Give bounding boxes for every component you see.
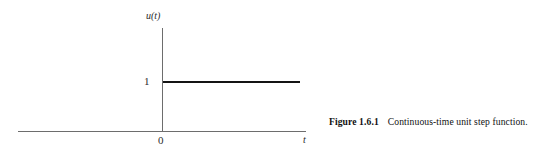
step-plateau-segment: [163, 81, 300, 83]
figure-caption: Figure 1.6.1Continuous-time unit step fu…: [329, 116, 529, 129]
y-axis-label: u(t): [146, 11, 160, 21]
figure-caption-number: Figure 1.6.1: [329, 116, 379, 127]
x-axis-label: t: [303, 135, 306, 145]
step-riser-segment: [162, 81, 164, 132]
y-axis-tick-label-1: 1: [144, 76, 150, 87]
figure-caption-text: Continuous-time unit step function.: [388, 116, 528, 127]
unit-step-plot: u(t) 1 0 t: [0, 0, 320, 157]
origin-label: 0: [158, 135, 164, 146]
